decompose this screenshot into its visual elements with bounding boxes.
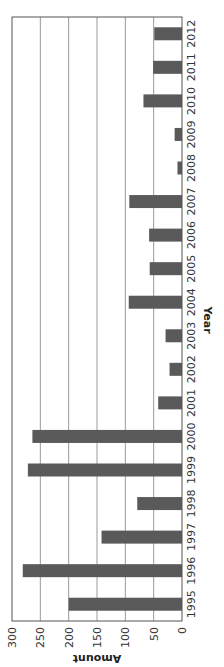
category-tick-label: 2001	[185, 389, 198, 417]
category-tick-label: 2000	[185, 422, 198, 450]
category-tick-label: 1995	[185, 590, 198, 618]
category-tick-label: 2011	[185, 53, 198, 81]
bar-2004	[129, 296, 182, 309]
value-tick-label: 100	[119, 627, 132, 648]
category-tick-label: 2012	[185, 20, 198, 48]
value-tick-label: 150	[91, 627, 104, 648]
category-tick-label: 2008	[185, 154, 198, 182]
bar-2000	[32, 430, 182, 443]
bar-2001	[158, 396, 182, 409]
bar-2003	[166, 329, 182, 342]
value-tick-label: 300	[6, 627, 19, 648]
category-axis-title: Year	[201, 305, 214, 334]
bar-2011	[153, 61, 182, 74]
value-axis-title: Amount	[73, 652, 121, 665]
value-axis-ticks: 050100150200250300	[6, 627, 189, 648]
bar-1999	[28, 464, 182, 477]
value-tick-label: 50	[148, 627, 161, 641]
value-tick-label: 200	[63, 627, 76, 648]
category-tick-label: 2006	[185, 221, 198, 249]
bar-chart: 050100150200250300 199519961997199819992…	[0, 0, 224, 667]
bar-2009	[175, 128, 182, 141]
bars	[23, 27, 182, 610]
category-tick-label: 2003	[185, 322, 198, 350]
bar-1996	[23, 564, 182, 577]
category-axis-ticks: 1995199619971998199920002001200220032004…	[185, 20, 198, 618]
value-tick-label: 0	[176, 627, 189, 634]
category-tick-label: 1999	[185, 456, 198, 484]
value-tick-label: 250	[34, 627, 47, 648]
bar-2012	[154, 27, 182, 40]
category-tick-label: 1997	[185, 523, 198, 551]
bar-2008	[177, 162, 182, 175]
category-tick-label: 2009	[185, 120, 198, 148]
bar-2005	[150, 262, 182, 275]
bar-1998	[137, 497, 182, 510]
bar-1995	[69, 598, 182, 611]
bar-1997	[102, 531, 182, 544]
category-tick-label: 2004	[185, 288, 198, 316]
bar-2002	[170, 363, 182, 376]
category-tick-label: 1996	[185, 557, 198, 585]
bar-2006	[149, 229, 182, 242]
category-tick-label: 2002	[185, 355, 198, 383]
bar-2007	[129, 195, 182, 208]
category-tick-label: 1998	[185, 490, 198, 518]
category-tick-label: 2010	[185, 87, 198, 115]
category-tick-label: 2007	[185, 188, 198, 216]
category-tick-label: 2005	[185, 255, 198, 283]
gridlines	[40, 17, 153, 621]
bar-2010	[143, 94, 182, 107]
